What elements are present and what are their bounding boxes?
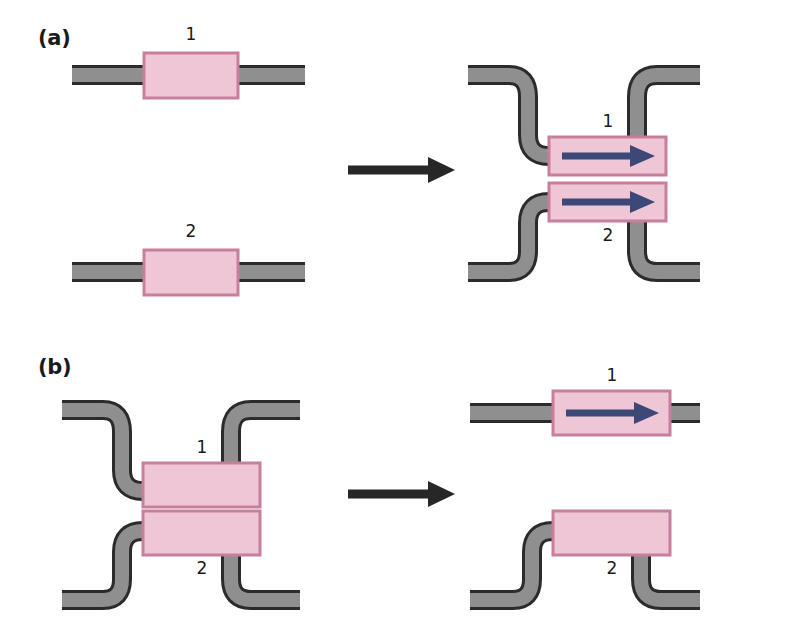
figure-canvas: (a) 1 2 1 2 (b) 1 2 1 2 <box>0 0 787 636</box>
panel-b-right-tracks <box>470 413 700 600</box>
label-b-right-box-2: 2 <box>597 558 627 578</box>
panel-label-a: (a) <box>38 26 70 50</box>
panel-a-left-tracks <box>72 75 305 272</box>
box-b-left-2 <box>143 511 260 555</box>
box-a-left-2 <box>144 250 238 295</box>
arrow-panel-b-transition <box>348 481 455 507</box>
label-b-right-box-1: 1 <box>597 365 627 385</box>
label-a-left-box-2: 2 <box>176 221 206 241</box>
diagram-svg <box>0 0 787 636</box>
label-a-right-box-2: 2 <box>593 225 623 245</box>
panel-label-b: (b) <box>38 355 71 379</box>
arrow-panel-a-transition <box>348 157 455 183</box>
label-a-left-box-1: 1 <box>176 24 206 44</box>
panel-a-left-boxes <box>144 53 238 295</box>
label-a-right-box-1: 1 <box>593 111 623 131</box>
box-b-right-2 <box>553 511 670 555</box>
panel-b-left-boxes <box>143 463 260 555</box>
panel-b-right-boxes <box>553 391 670 555</box>
panel-a-right-boxes <box>549 137 666 221</box>
box-b-left-1 <box>143 463 260 507</box>
label-b-left-box-1: 1 <box>187 437 217 457</box>
box-a-left-1 <box>144 53 238 98</box>
label-b-left-box-2: 2 <box>187 558 217 578</box>
